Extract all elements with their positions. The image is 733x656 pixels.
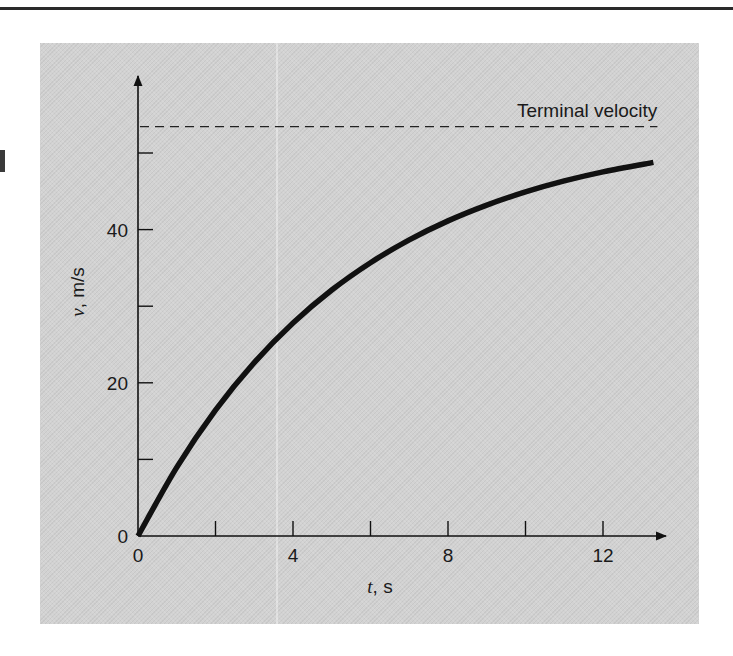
y-tick-label: 20 [107, 373, 128, 394]
chart: 04812 02040 Terminal velocity t, s v, m/… [0, 0, 733, 656]
x-axis-label-unit: , s [373, 576, 393, 597]
y-axis-label-unit: , m/s [67, 267, 88, 308]
x-axis-label: t, s [367, 576, 392, 597]
y-ticks: 02040 [107, 153, 153, 547]
velocity-curve [138, 162, 653, 536]
y-axis-label: v, m/s [67, 267, 88, 317]
x-tick-label: 0 [133, 545, 144, 566]
x-tick-label: 8 [443, 545, 454, 566]
x-ticks: 04812 [133, 521, 614, 566]
y-tick-label: 0 [117, 526, 128, 547]
x-tick-label: 12 [592, 545, 613, 566]
x-tick-label: 4 [288, 545, 299, 566]
terminal-velocity-label: Terminal velocity [517, 100, 658, 121]
y-tick-label: 40 [107, 220, 128, 241]
